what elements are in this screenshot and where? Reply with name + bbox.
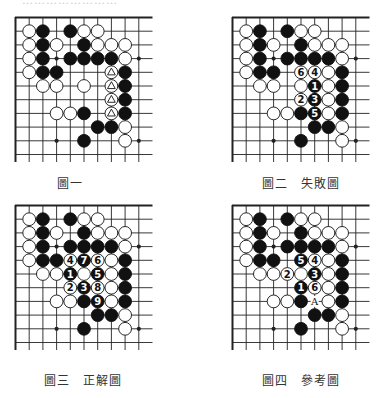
white-stone xyxy=(295,80,308,93)
white-stone xyxy=(240,227,253,240)
black-stone xyxy=(267,254,280,267)
black-stone xyxy=(37,52,50,65)
white-stone xyxy=(105,227,118,240)
white-stone xyxy=(78,213,91,226)
white-stone xyxy=(336,39,349,52)
black-stone xyxy=(119,268,132,281)
move-number: 5 xyxy=(94,269,101,280)
black-stone xyxy=(254,52,267,65)
black-stone xyxy=(281,240,294,253)
black-stone xyxy=(267,66,280,79)
star-point-icon xyxy=(137,139,141,143)
white-stone xyxy=(23,240,36,253)
black-stone xyxy=(37,39,50,52)
move-number: 1 xyxy=(67,269,74,280)
black-stone xyxy=(295,107,308,120)
white-stone xyxy=(119,240,132,253)
black-stone xyxy=(91,52,104,65)
move-number: 5 xyxy=(298,255,305,266)
white-stone xyxy=(23,213,36,226)
star-point-icon xyxy=(354,327,358,331)
black-stone xyxy=(254,240,267,253)
star-point-icon xyxy=(272,57,276,61)
black-stone xyxy=(254,213,267,226)
white-stone xyxy=(240,25,253,38)
black-stone xyxy=(336,268,349,281)
white-stone xyxy=(322,254,335,267)
white-stone xyxy=(322,66,335,79)
black-stone xyxy=(91,309,104,322)
black-stone xyxy=(37,227,50,240)
white-stone xyxy=(295,213,308,226)
black-stone xyxy=(308,309,321,322)
black-stone xyxy=(254,39,267,52)
white-stone xyxy=(240,52,253,65)
board-svg: 123456789 xyxy=(15,205,165,355)
clipped-header-text: …………………… xyxy=(22,0,118,7)
black-stone xyxy=(322,121,335,134)
star-point-icon xyxy=(55,245,59,249)
black-stone xyxy=(119,66,132,79)
star-point-icon xyxy=(55,139,59,143)
white-stone xyxy=(267,227,280,240)
white-stone xyxy=(240,254,253,267)
move-number: 1 xyxy=(311,81,318,92)
star-point-icon xyxy=(55,57,59,61)
white-stone xyxy=(78,25,91,38)
white-stone xyxy=(254,80,267,93)
white-stone xyxy=(336,240,349,253)
white-stone xyxy=(322,268,335,281)
black-stone xyxy=(105,309,118,322)
white-stone xyxy=(91,39,104,52)
black-stone xyxy=(254,254,267,267)
black-stone xyxy=(78,322,91,335)
white-stone xyxy=(50,268,63,281)
move-number: 3 xyxy=(311,269,318,280)
white-stone xyxy=(50,80,63,93)
black-stone xyxy=(308,121,321,134)
black-stone xyxy=(105,52,118,65)
caption-figure-3: 圖三 正解圖 xyxy=(44,371,122,388)
white-stone xyxy=(50,227,63,240)
white-stone xyxy=(105,295,118,308)
white-stone xyxy=(50,107,63,120)
black-stone xyxy=(281,213,294,226)
star-point-icon xyxy=(272,245,276,249)
move-number: 6 xyxy=(311,282,318,293)
black-stone xyxy=(119,295,132,308)
white-stone xyxy=(322,93,335,106)
black-stone xyxy=(254,66,267,79)
move-number: 3 xyxy=(81,282,88,293)
white-stone xyxy=(23,254,36,267)
white-stone xyxy=(78,268,91,281)
white-stone xyxy=(322,227,335,240)
white-stone xyxy=(322,281,335,294)
white-stone xyxy=(23,25,36,38)
white-stone xyxy=(119,52,132,65)
black-stone xyxy=(336,295,349,308)
black-stone xyxy=(37,25,50,38)
move-number: 2 xyxy=(67,282,74,293)
black-stone xyxy=(336,93,349,106)
black-stone xyxy=(119,281,132,294)
move-number: 4 xyxy=(67,255,74,266)
white-stone xyxy=(91,213,104,226)
black-stone xyxy=(78,240,91,253)
black-stone xyxy=(64,25,77,38)
move-number: 6 xyxy=(298,67,305,78)
star-point-icon xyxy=(137,245,141,249)
white-stone xyxy=(295,268,308,281)
black-stone xyxy=(78,107,91,120)
white-stone xyxy=(240,213,253,226)
white-stone xyxy=(105,39,118,52)
black-stone xyxy=(322,240,335,253)
white-stone xyxy=(267,268,280,281)
black-stone xyxy=(119,80,132,93)
black-stone xyxy=(50,66,63,79)
white-stone xyxy=(267,39,280,52)
black-stone xyxy=(119,107,132,120)
move-number: 5 xyxy=(311,108,318,119)
black-stone xyxy=(295,227,308,240)
star-point-icon xyxy=(55,327,59,331)
move-number: 7 xyxy=(81,255,88,266)
